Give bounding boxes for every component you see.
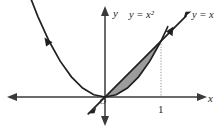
x-axis-right-arrow [197,93,207,101]
coordinate-plane: y x y = x² y = x 1 O [0,0,224,129]
line-label: y = x [191,9,214,20]
line-upper-right-arrow [184,12,192,18]
x-tick-label-1: 1 [158,103,164,115]
y-axis-label: y [112,7,118,19]
y-axis-top-arrow [101,6,109,16]
x-axis-left-arrow [7,93,17,101]
x-axis-label: x [207,92,213,104]
y-axis-bottom-arrow [101,116,109,126]
parabola-label: y = x² [128,9,155,20]
graph-figure: y x y = x² y = x 1 O [0,0,224,129]
origin-label: O [100,96,107,106]
